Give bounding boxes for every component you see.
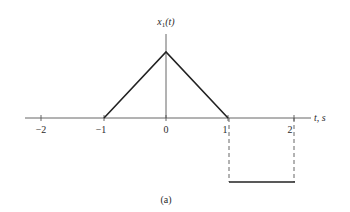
x-axis-label: t, s bbox=[314, 112, 326, 123]
signal-plot: −2 −1 0 1 2 x1(t) t, s (a) bbox=[0, 0, 350, 212]
tick-label-1: 1 bbox=[223, 124, 228, 135]
y-axis-label: x1(t) bbox=[156, 16, 175, 29]
figure-caption: (a) bbox=[160, 194, 171, 206]
tick-label-2: 2 bbox=[288, 124, 293, 135]
x-tick-labels: −2 −1 0 1 2 bbox=[36, 124, 293, 135]
tick-label-0: 0 bbox=[164, 124, 169, 135]
tick-label-neg2: −2 bbox=[36, 124, 47, 135]
tick-label-neg1: −1 bbox=[96, 124, 107, 135]
